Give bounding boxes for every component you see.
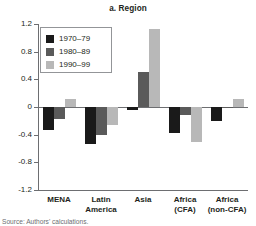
legend-label: 1970–79	[59, 34, 90, 43]
bar	[107, 107, 118, 125]
legend-item: 1990–99	[46, 58, 111, 71]
bar	[222, 107, 233, 108]
y-axis-tick-label: -0.8	[0, 158, 32, 166]
bar	[65, 99, 76, 107]
bar	[233, 99, 244, 107]
y-axis-tick-label: 0.8	[0, 48, 32, 56]
legend-label: 1980–89	[59, 47, 90, 56]
x-axis-category-label: Africa(non-CFA)	[196, 195, 256, 215]
bar	[138, 72, 149, 107]
bar	[169, 107, 180, 133]
chart-container: a. Region 1.20.80.40-0.4-0.8-1.2 MENALat…	[0, 0, 256, 226]
legend-swatch-icon	[46, 61, 54, 69]
bar	[96, 107, 107, 135]
x-axis-line	[38, 190, 248, 191]
legend-label: 1990–99	[59, 60, 90, 69]
y-axis-tick-label: 1.2	[0, 20, 32, 28]
bar	[180, 107, 191, 115]
y-axis-tick-label: 0.4	[0, 75, 32, 83]
legend-swatch-icon	[46, 35, 54, 43]
chart-title: a. Region	[0, 4, 256, 13]
bar	[43, 107, 54, 130]
legend: 1970–791980–891990–99	[40, 27, 112, 73]
y-axis-tick-label: 0	[0, 103, 32, 111]
bar	[191, 107, 202, 142]
source-note: Source: Authors' calculations.	[2, 218, 88, 225]
legend-item: 1980–89	[46, 45, 111, 58]
y-axis-tick-label: -0.4	[0, 131, 32, 139]
y-axis-tick-label: -1.2	[0, 186, 32, 194]
bar	[127, 107, 138, 110]
legend-item: 1970–79	[46, 32, 111, 45]
bar	[85, 107, 96, 144]
bar	[149, 29, 160, 107]
bar	[54, 107, 65, 119]
bar	[211, 107, 222, 121]
legend-swatch-icon	[46, 48, 54, 56]
